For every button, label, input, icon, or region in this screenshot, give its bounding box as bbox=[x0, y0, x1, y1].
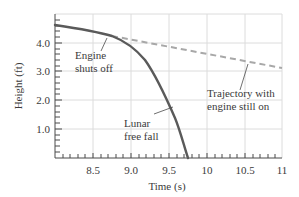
y-tick-label: 4.0 bbox=[36, 37, 50, 49]
svg-text:engine still on: engine still on bbox=[207, 100, 270, 112]
svg-text:Engine: Engine bbox=[75, 49, 106, 61]
y-tick-label: 1.0 bbox=[36, 123, 50, 135]
annotation-engine-shuts-off: Engine shuts off bbox=[75, 49, 113, 74]
svg-text:free fall: free fall bbox=[124, 130, 159, 142]
x-tick-label: 10.5 bbox=[235, 164, 255, 176]
x-tick-label: 8.5 bbox=[86, 164, 100, 176]
grid bbox=[55, 14, 282, 158]
y-minor-ticks bbox=[55, 20, 62, 152]
y-tick-label: 3.0 bbox=[36, 65, 50, 77]
x-minor-ticks bbox=[63, 153, 275, 158]
annotation-engine-still-on: Trajectory with engine still on bbox=[207, 87, 275, 112]
y-axis-title: Height (ft) bbox=[12, 62, 25, 109]
svg-text:Trajectory with: Trajectory with bbox=[207, 87, 275, 99]
chart: 4.0 3.0 2.0 1.0 8.5 9.0 9.5 10 10.5 11 T… bbox=[0, 0, 299, 197]
x-axis-title: Time (s) bbox=[148, 180, 186, 193]
svg-text:shuts off: shuts off bbox=[75, 62, 113, 74]
x-tick-label: 10 bbox=[202, 164, 214, 176]
annotation-lunar-free-fall: Lunar free fall bbox=[124, 117, 159, 142]
x-tick-label: 9.0 bbox=[124, 164, 138, 176]
actual-trajectory-line bbox=[55, 25, 188, 158]
y-tick-labels: 4.0 3.0 2.0 1.0 bbox=[36, 37, 50, 135]
y-tick-label: 2.0 bbox=[36, 94, 50, 106]
x-tick-labels: 8.5 9.0 9.5 10 10.5 11 bbox=[86, 164, 287, 176]
x-tick-label: 11 bbox=[277, 164, 288, 176]
x-tick-label: 9.5 bbox=[162, 164, 176, 176]
svg-text:Lunar: Lunar bbox=[124, 117, 151, 129]
